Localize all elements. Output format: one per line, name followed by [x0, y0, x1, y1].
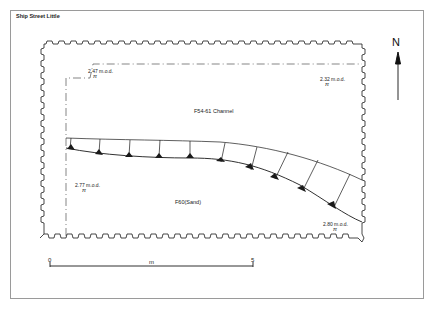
level-pi-symbol: π: [333, 226, 337, 232]
limit-line: [66, 64, 362, 236]
level-label-2-32: 2.32 m.o.d.: [320, 76, 345, 82]
channel-feature: [66, 138, 362, 222]
channel-label: F54-61 Channel: [194, 108, 233, 114]
level-label-2-77: 2.77 m.o.d.: [75, 182, 100, 188]
north-arrow-icon: [396, 52, 401, 100]
scale-end-label: 5: [251, 257, 254, 263]
level-pi-symbol: π: [93, 73, 97, 79]
level-label-2-47: 2.47 m.o.d.: [88, 68, 113, 74]
level-pi-symbol: π: [82, 187, 86, 193]
sand-label: F60(Sand): [175, 199, 201, 205]
site-plan-drawing: [0, 0, 435, 311]
level-pi-symbol: π: [325, 81, 329, 87]
scale-start-label: 0: [48, 257, 51, 263]
scale-unit-label: m: [149, 259, 154, 265]
channel-bottom-edge: [66, 148, 362, 222]
north-label: N: [392, 36, 400, 48]
slope-triangles: [67, 144, 336, 209]
